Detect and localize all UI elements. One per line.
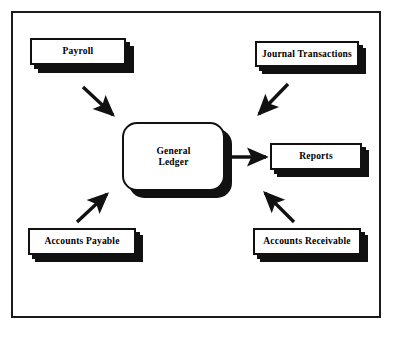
node-accounts-receivable[interactable]: Accounts Receivable	[253, 228, 361, 255]
node-general-ledger[interactable]: General Ledger	[122, 122, 225, 191]
node-reports[interactable]: Reports	[270, 143, 362, 170]
node-journal-transactions[interactable]: Journal Transactions	[255, 41, 359, 67]
node-journal-transactions-label: Journal Transactions	[262, 49, 352, 60]
node-accounts-receivable-label: Accounts Receivable	[263, 236, 350, 247]
node-accounts-payable[interactable]: Accounts Payable	[28, 228, 136, 255]
node-payroll[interactable]: Payroll	[30, 38, 126, 65]
diagram-canvas: Payroll Journal Transactions Reports Acc…	[0, 0, 398, 338]
node-accounts-payable-label: Accounts Payable	[44, 236, 119, 247]
node-general-ledger-label-line1: General	[156, 146, 190, 157]
node-reports-label: Reports	[299, 151, 333, 162]
node-general-ledger-label-line2: Ledger	[158, 157, 188, 168]
node-payroll-label: Payroll	[63, 46, 94, 57]
